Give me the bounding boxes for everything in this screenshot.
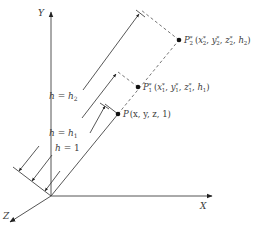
label-point-p1-star: P*1(x*1, y*1, z*1, h1) [142,82,210,93]
ray-solid-segment [51,114,118,196]
label-h-equals-1: h = 1 [55,143,80,153]
base-extension-line [13,167,51,196]
dimension-labels: h = h2 h = h1 h = 1 [49,91,80,153]
label-h-equals-h2: h = h2 [49,91,78,102]
label-point-p: P(x, y, z, 1) [122,109,171,119]
ray-dashed-segment [118,40,179,114]
diagram-canvas: Y X Z h = h2 h = h1 [0,0,257,236]
perpendicular-connectors [105,10,179,114]
dim-h2-upper [83,14,139,90]
connector-p2 [141,10,179,40]
dim-h1-upper [82,74,116,118]
connector-p1 [118,72,138,87]
label-point-p2-star: P*2(x*2, y*2, z*2, h2) [183,35,251,46]
label-h-equals-h1: h = h1 [49,128,78,139]
connector-p [105,104,118,114]
dimension-lines [19,10,145,191]
point-p [116,112,121,117]
z-axis [10,196,51,222]
x-axis-label: X [199,201,207,211]
z-axis-label: Z [2,211,10,221]
dim-1-upper [90,106,105,133]
point-p1-star [136,85,141,90]
dim-h1-lower [32,155,52,181]
y-axis-label: Y [38,8,45,18]
dim-h2-lower [19,146,39,171]
point-p2-star [177,38,182,43]
